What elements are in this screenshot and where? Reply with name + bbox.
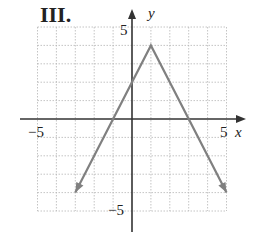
x-axis-arrow-icon [236,115,246,123]
axes [20,9,246,232]
x-axis-label: x [234,124,242,140]
y-min-tick-label: −5 [108,202,124,218]
y-axis-label: y [146,5,155,21]
x-min-tick-label: −5 [28,124,44,140]
y-max-tick-label: 5 [120,22,128,38]
line-arrowhead-icon [75,182,83,193]
x-max-tick-label: 5 [220,124,228,140]
axis-labels: yx5−5−55 [28,5,242,218]
y-axis-arrow-icon [128,9,136,19]
line-arrowhead-icon [218,182,226,193]
graph-plot: yx5−5−55 [0,0,256,235]
